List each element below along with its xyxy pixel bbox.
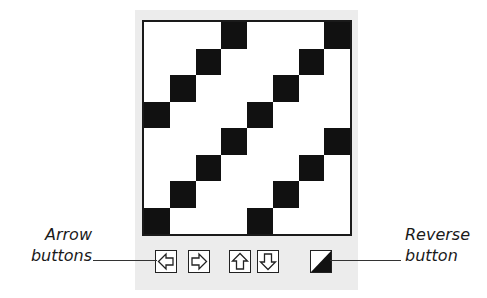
left-arrow-button[interactable] [155, 250, 177, 273]
callout-line1: Arrow [20, 224, 92, 245]
grid-cell-filled[interactable] [144, 102, 170, 129]
grid-cell-empty[interactable] [144, 181, 170, 208]
grid-cell-empty[interactable] [170, 102, 196, 129]
grid-cell-empty[interactable] [170, 22, 196, 49]
grid-cell-empty[interactable] [324, 208, 350, 235]
grid-cell-empty[interactable] [299, 128, 325, 155]
grid-cell-filled[interactable] [273, 75, 299, 102]
grid-cell-empty[interactable] [196, 22, 222, 49]
arrow-right-icon [189, 251, 209, 272]
grid-cell-empty[interactable] [324, 155, 350, 182]
grid-cell-empty[interactable] [144, 75, 170, 102]
grid-cell-empty[interactable] [299, 208, 325, 235]
grid-cell-empty[interactable] [221, 75, 247, 102]
grid-cell-empty[interactable] [196, 128, 222, 155]
grid-cell-filled[interactable] [247, 102, 273, 129]
grid-cell-empty[interactable] [221, 155, 247, 182]
arrow-buttons-callout: Arrow buttons [20, 224, 92, 266]
reverse-button-leader-line [330, 260, 401, 261]
grid-cell-empty[interactable] [196, 75, 222, 102]
reverse-button-callout: Reverse button [403, 224, 483, 266]
grid-cell-empty[interactable] [221, 181, 247, 208]
grid-cell-filled[interactable] [324, 22, 350, 49]
grid-cell-filled[interactable] [273, 181, 299, 208]
grid-cell-empty[interactable] [273, 49, 299, 76]
grid-cell-filled[interactable] [299, 155, 325, 182]
grid-cell-empty[interactable] [170, 208, 196, 235]
grid-cell-empty[interactable] [273, 22, 299, 49]
grid-cell-empty[interactable] [247, 75, 273, 102]
grid-cell-empty[interactable] [170, 128, 196, 155]
grid-cell-empty[interactable] [196, 208, 222, 235]
grid-cell-empty[interactable] [299, 75, 325, 102]
arrow-up-icon [230, 251, 250, 272]
grid-cell-filled[interactable] [299, 49, 325, 76]
grid-cell-empty[interactable] [221, 102, 247, 129]
grid-cell-empty[interactable] [196, 181, 222, 208]
grid-cell-filled[interactable] [170, 181, 196, 208]
arrow-down-icon [258, 251, 278, 272]
grid-cell-filled[interactable] [247, 208, 273, 235]
grid-cell-empty[interactable] [247, 22, 273, 49]
grid-cell-empty[interactable] [324, 49, 350, 76]
grid-cell-empty[interactable] [144, 49, 170, 76]
grid-cell-empty[interactable] [299, 102, 325, 129]
grid-cell-empty[interactable] [144, 128, 170, 155]
callout-line2: button [403, 245, 483, 266]
reverse-diagonal-icon [311, 251, 331, 272]
grid-cell-empty[interactable] [273, 102, 299, 129]
grid-cell-empty[interactable] [273, 128, 299, 155]
grid-cell-empty[interactable] [247, 181, 273, 208]
grid-cell-empty[interactable] [299, 22, 325, 49]
grid-cell-empty[interactable] [196, 102, 222, 129]
grid-cell-filled[interactable] [144, 208, 170, 235]
grid-cell-empty[interactable] [324, 102, 350, 129]
grid-cell-empty[interactable] [144, 22, 170, 49]
callout-line1: Reverse [403, 224, 483, 245]
pattern-grid[interactable] [142, 20, 352, 236]
grid-cell-empty[interactable] [170, 155, 196, 182]
grid-cell-filled[interactable] [324, 128, 350, 155]
grid-cell-empty[interactable] [324, 181, 350, 208]
grid-cell-empty[interactable] [221, 208, 247, 235]
grid-cell-filled[interactable] [221, 128, 247, 155]
callout-line2: buttons [20, 245, 92, 266]
grid-cell-empty[interactable] [299, 181, 325, 208]
grid-cell-empty[interactable] [247, 49, 273, 76]
grid-cell-empty[interactable] [273, 155, 299, 182]
right-arrow-button[interactable] [188, 250, 210, 273]
grid-cell-empty[interactable] [247, 128, 273, 155]
grid-cell-empty[interactable] [324, 75, 350, 102]
arrow-buttons-leader-line [93, 260, 157, 261]
arrow-left-icon [156, 251, 176, 272]
grid-cell-empty[interactable] [247, 155, 273, 182]
grid-cell-empty[interactable] [170, 49, 196, 76]
grid-cell-empty[interactable] [144, 155, 170, 182]
grid-cell-filled[interactable] [170, 75, 196, 102]
up-arrow-button[interactable] [229, 250, 251, 273]
reverse-button[interactable] [310, 250, 332, 273]
down-arrow-button[interactable] [257, 250, 279, 273]
grid-cell-filled[interactable] [196, 49, 222, 76]
grid-cell-filled[interactable] [221, 22, 247, 49]
grid-cell-empty[interactable] [221, 49, 247, 76]
grid-cell-filled[interactable] [196, 155, 222, 182]
grid-cell-empty[interactable] [273, 208, 299, 235]
